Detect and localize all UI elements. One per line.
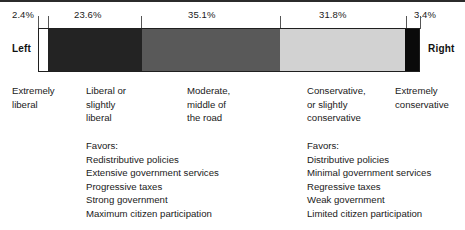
category-label-line: or slightly — [307, 98, 366, 112]
favors-list-item: Minimal government services — [307, 166, 431, 180]
ideology-stacked-bar — [38, 28, 420, 72]
category-label-line: Moderate, — [187, 84, 230, 98]
category-label-line: conservative — [395, 98, 449, 112]
category-label-line: slightly — [86, 98, 126, 112]
favors-title: Favors: — [307, 139, 431, 153]
category-label-moderate: Moderate,middle ofthe road — [187, 84, 230, 125]
category-label-line: liberal — [12, 98, 55, 112]
favors-list: Redistributive policiesExtensive governm… — [86, 153, 219, 221]
percentage-label: 31.8% — [319, 9, 346, 20]
category-label-line: middle of — [187, 98, 230, 112]
percentage-label-row: 2.4%23.6%35.1%31.8%3.4% — [0, 9, 465, 27]
category-label-extremely-conservative: Extremelyconservative — [395, 84, 449, 111]
category-label-line: liberal — [86, 111, 126, 125]
favors-list-item: Maximum citizen participation — [86, 207, 219, 221]
favors-list-item: Weak government — [307, 193, 431, 207]
bar-segment-extremely-liberal — [39, 29, 48, 71]
favors-list-item: Distributive policies — [307, 153, 431, 167]
favors-block-right: Favors:Distributive policiesMinimal gove… — [307, 139, 431, 220]
axis-label-right: Right — [428, 43, 455, 54]
category-label-liberal-slightly-liberal: Liberal orslightlyliberal — [86, 84, 126, 125]
percentage-label: 23.6% — [74, 9, 101, 20]
figure-top-rule — [0, 0, 465, 2]
category-label-line: the road — [187, 111, 230, 125]
category-label-line: conservative — [307, 111, 366, 125]
category-label-conservative-slightly: Conservative,or slightlyconservative — [307, 84, 366, 125]
favors-list-item: Extensive government services — [86, 166, 219, 180]
bar-segment-conservative-slightly — [280, 29, 405, 71]
favors-list-item: Strong government — [86, 193, 219, 207]
favors-list-item: Redistributive policies — [86, 153, 219, 167]
bar-segment-extremely-conservative — [405, 29, 419, 71]
segment-tick-icon — [420, 16, 421, 29]
favors-title: Favors: — [86, 139, 219, 153]
category-label-line: Conservative, — [307, 84, 366, 98]
category-label-line: Extremely — [395, 84, 449, 98]
favors-list-item: Limited citizen participation — [307, 207, 431, 221]
percentage-label: 3.4% — [414, 9, 436, 20]
favors-list-item: Progressive taxes — [86, 180, 219, 194]
ideology-spectrum-figure: 2.4%23.6%35.1%31.8%3.4% Left Right Extre… — [0, 0, 465, 230]
category-label-line: Extremely — [12, 84, 55, 98]
percentage-label: 35.1% — [188, 9, 215, 20]
bar-segment-moderate — [142, 29, 280, 71]
percentage-label: 2.4% — [12, 9, 34, 20]
bar-segment-liberal-slightly-liberal — [48, 29, 141, 71]
axis-label-left: Left — [12, 43, 31, 54]
category-label-line: Liberal or — [86, 84, 126, 98]
favors-list-item: Regressive taxes — [307, 180, 431, 194]
category-label-extremely-liberal: Extremelyliberal — [12, 84, 55, 111]
favors-block-left: Favors:Redistributive policiesExtensive … — [86, 139, 219, 220]
favors-list: Distributive policiesMinimal government … — [307, 153, 431, 221]
